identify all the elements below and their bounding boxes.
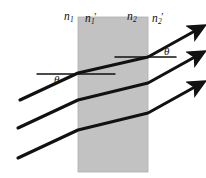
label-n2: n2 [127, 11, 137, 24]
figure-canvas [0, 0, 206, 178]
label-n2-prime: n2′ [152, 11, 164, 26]
label-n1-prime: n1′ [85, 11, 97, 26]
label-n1p-base: n [85, 12, 91, 24]
optics-refraction-figure: n1 n1′ n2 n2′ θ θ [0, 0, 206, 178]
label-n1p-prime: ′ [94, 10, 96, 22]
label-n2p-base: n [152, 12, 158, 24]
label-n2-sub: 2 [133, 15, 137, 24]
label-n2p-prime: ′ [161, 10, 163, 22]
label-n1: n1 [64, 11, 74, 24]
slab-rect [78, 17, 148, 172]
theta-left-label: θ [54, 74, 59, 85]
label-n2-base: n [127, 10, 133, 22]
label-n1-base: n [64, 10, 70, 22]
label-n1-sub: 1 [70, 15, 74, 24]
theta-right-label: θ [164, 46, 169, 57]
